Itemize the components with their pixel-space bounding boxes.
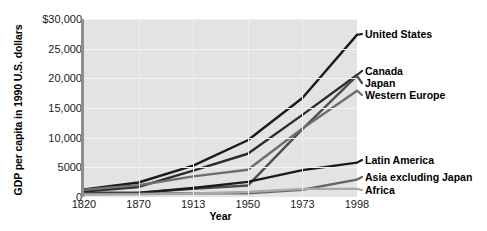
series-leader-line <box>357 189 362 190</box>
series-label-asia-excluding-japan: Asia excluding Japan <box>365 172 472 183</box>
series-leader-line <box>357 91 362 95</box>
series-leader-line <box>357 160 362 163</box>
gdp-per-capita-line-chart: GDP per capita in 1990 U.S. dollars 0500… <box>0 0 487 231</box>
series-label-western-europe: Western Europe <box>365 90 445 101</box>
series-label-latin-america: Latin America <box>365 155 434 166</box>
series-label-united-states: United States <box>365 29 432 40</box>
series-label-canada: Canada <box>365 66 403 77</box>
series-label-africa: Africa <box>365 185 395 196</box>
series-label-japan: Japan <box>365 78 395 89</box>
series-leader-line <box>357 177 362 180</box>
series-leader-line <box>357 34 362 35</box>
series-leader-line <box>357 76 362 83</box>
series-leader-line <box>357 71 362 75</box>
